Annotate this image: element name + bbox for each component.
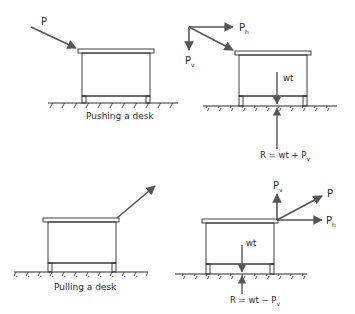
pull-force-label: P [327, 188, 333, 199]
push-force-arrow [31, 27, 76, 48]
ground-line [203, 106, 337, 111]
push-caption: Pushing a desk [86, 111, 154, 121]
pull-force-arrow [117, 186, 155, 218]
pull-components-diagram: P Ph Pv wt R = wt − Pv [175, 180, 336, 307]
push-force-arrow [189, 27, 233, 50]
push-desk-diagram: P Pushing a desk [31, 16, 178, 121]
push-components-diagram: Ph Pv wt R = wt + Pv [185, 22, 337, 162]
pull-force-arrow [277, 196, 322, 220]
ground-line [14, 272, 148, 277]
weight-label: wt [283, 73, 294, 83]
reaction-label: R = wt − Pv [230, 295, 280, 307]
vertical-component-label: Pv [273, 180, 283, 193]
weight-label: wt [246, 238, 257, 248]
desk-icon [78, 49, 154, 103]
reaction-label: R = wt + Pv [260, 150, 310, 162]
force-diagram: P Pushing a desk Ph Pv wt R = wt + Pv [0, 0, 355, 314]
push-force-label: P [41, 16, 47, 27]
ground-line [175, 274, 307, 279]
pull-caption: Pulling a desk [54, 282, 117, 292]
horizontal-component-label: Ph [239, 22, 249, 35]
desk-icon [202, 219, 278, 274]
desk-icon [43, 218, 119, 272]
vertical-component-label: Pv [185, 55, 195, 68]
pull-desk-diagram: Pulling a desk [14, 186, 155, 292]
horizontal-component-label: Ph [326, 215, 336, 228]
ground-line [48, 103, 178, 108]
desk-icon [235, 51, 311, 106]
